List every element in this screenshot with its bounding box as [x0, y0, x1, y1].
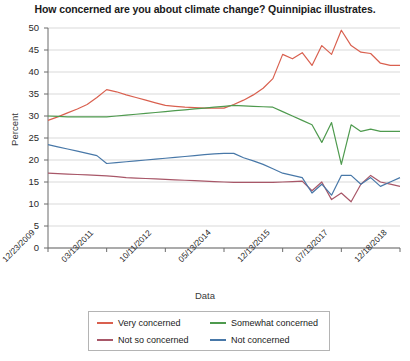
legend-swatch-somewhat-concerned	[210, 322, 226, 324]
series-line-somewhat-concerned	[48, 105, 400, 164]
legend-swatch-not-so-concerned	[97, 339, 113, 341]
legend-swatch-very-concerned	[97, 322, 113, 324]
y-tick-label: 45	[17, 44, 39, 55]
legend-label-not-concerned: Not concerned	[231, 335, 290, 345]
y-tick-label: 20	[17, 154, 39, 165]
y-tick-label: 30	[17, 110, 39, 121]
y-tick-label: 50	[17, 22, 39, 33]
x-axis-title: Data	[0, 290, 410, 301]
y-tick-label: 10	[17, 198, 39, 209]
axis-ticks	[44, 28, 400, 252]
legend-item-not-concerned[interactable]: Not concerned	[210, 335, 323, 345]
legend-swatch-not-concerned	[210, 339, 226, 341]
legend-item-very-concerned[interactable]: Very concerned	[97, 318, 210, 328]
y-tick-label: 35	[17, 88, 39, 99]
legend-item-not-so-concerned[interactable]: Not so concerned	[97, 335, 210, 345]
chart-figure: How concerned are you about climate chan…	[0, 0, 410, 361]
series-line-not-concerned	[48, 145, 400, 196]
gridlines	[48, 28, 400, 248]
plot-area	[0, 0, 410, 361]
legend-label-somewhat-concerned: Somewhat concerned	[231, 318, 318, 328]
legend-label-not-so-concerned: Not so concerned	[118, 335, 189, 345]
legend-item-somewhat-concerned[interactable]: Somewhat concerned	[210, 318, 323, 328]
y-tick-label: 25	[17, 132, 39, 143]
chart-legend: Very concerned Somewhat concerned Not so…	[88, 311, 330, 351]
y-tick-label: 15	[17, 176, 39, 187]
series-line-not-so-concerned	[48, 173, 400, 202]
y-tick-label: 40	[17, 66, 39, 77]
y-axis-title: Percent	[9, 100, 20, 160]
legend-label-very-concerned: Very concerned	[118, 318, 181, 328]
